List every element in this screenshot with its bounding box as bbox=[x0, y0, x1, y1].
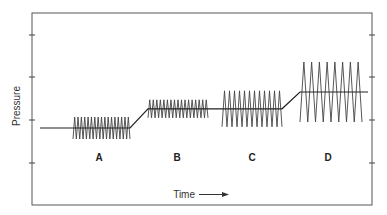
y-axis-label: Pressure bbox=[11, 86, 22, 126]
pressure-time-diagram: ABCD Pressure Time bbox=[0, 0, 387, 215]
x-axis-label: Time bbox=[173, 189, 195, 200]
segment-label-c: C bbox=[248, 152, 255, 163]
segment-label-b: B bbox=[173, 152, 180, 163]
axis-ticks bbox=[29, 35, 375, 163]
segment-labels: ABCD bbox=[95, 152, 331, 163]
segment-label-a: A bbox=[95, 152, 102, 163]
segment-label-d: D bbox=[324, 152, 331, 163]
time-arrow-icon bbox=[199, 192, 229, 197]
